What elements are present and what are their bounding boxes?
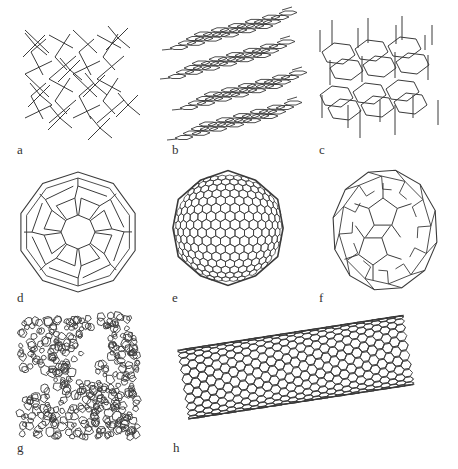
panel-f-c70: f [300,150,458,310]
panel-g-amorphous: g [0,300,150,469]
lonsdaleite-lattice-drawing [300,0,458,160]
c60-fullerene-drawing [0,150,150,310]
panel-a-diamond: a [0,0,150,160]
panel-e-c540: e [150,150,305,310]
c70-fullerene-drawing [300,150,458,310]
panel-d-c60: d [0,150,150,310]
panel-label-g: g [17,441,24,454]
panel-label-h: h [173,441,180,454]
graphite-layers-drawing [150,0,305,160]
panel-b-graphite: b [150,0,305,160]
panel-h-nanotube: h [150,300,458,469]
panel-c-lonsdaleite: c [300,0,458,160]
c540-fullerene-drawing [150,150,305,310]
diamond-lattice-drawing [0,0,150,160]
carbon-nanotube-drawing [150,300,458,469]
